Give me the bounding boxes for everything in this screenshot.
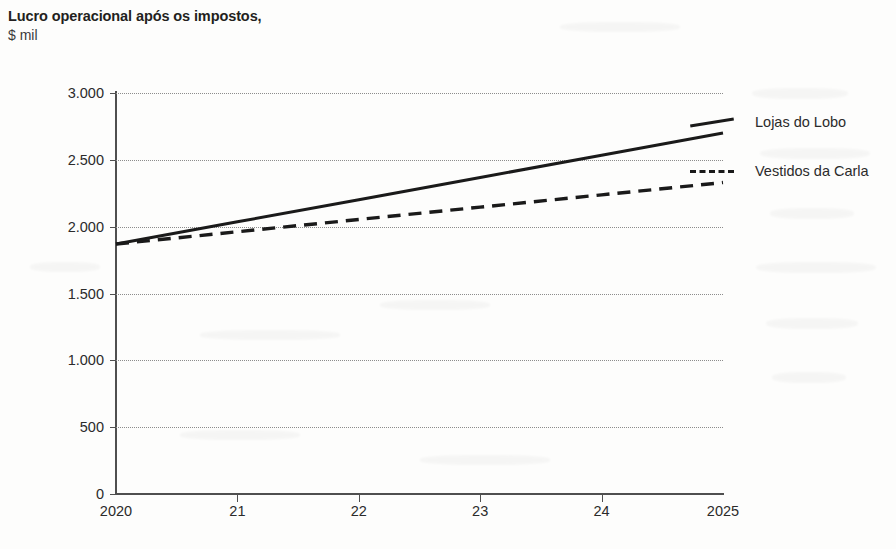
plot-area [116, 93, 723, 494]
x-axis-ticks [116, 494, 723, 502]
x-axis-tick-label: 22 [351, 503, 367, 519]
x-axis-tick [602, 494, 603, 502]
chart-page: Lucro operacional após os impostos, $ mi… [0, 0, 896, 549]
page-bleed-artifact [766, 318, 858, 329]
page-bleed-artifact [752, 88, 848, 99]
x-axis-tick-label: 2025 [707, 503, 739, 519]
x-axis-tick-label: 23 [472, 503, 488, 519]
y-axis-tick-label: 1.500 [68, 286, 104, 302]
x-axis-labels: 2020212223242025 [0, 503, 896, 527]
y-axis-tick-label: 0 [96, 486, 104, 502]
page-bleed-artifact [756, 262, 876, 273]
y-axis-tick-label: 500 [80, 419, 104, 435]
x-axis-tick-label: 24 [594, 503, 610, 519]
legend-item-label: Vestidos da Carla [755, 161, 869, 181]
x-axis-tick [359, 494, 360, 502]
page-bleed-artifact [560, 22, 680, 32]
page-bleed-artifact [772, 372, 846, 383]
x-axis-tick-label: 21 [229, 503, 245, 519]
x-axis-tick [480, 494, 481, 502]
y-axis-tick-label: 2.000 [68, 219, 104, 235]
y-axis-tick-label: 3.000 [68, 85, 104, 101]
x-axis-tick-label: 2020 [100, 503, 132, 519]
y-axis-tick-label: 1.000 [68, 352, 104, 368]
x-axis-tick [237, 494, 238, 502]
page-bleed-artifact [770, 208, 854, 219]
page-title: Lucro operacional após os impostos, [8, 8, 528, 25]
y-axis-labels: 05001.0001.5002.0002.5003.000 [0, 93, 104, 494]
chart-subtitle: $ mil [8, 26, 528, 44]
series-lines [116, 93, 723, 494]
legend-item-label: Lojas do Lobo [755, 112, 846, 132]
chart-heading: Lucro operacional após os impostos, $ mi… [8, 8, 528, 44]
series-line [116, 133, 723, 244]
y-axis-tick-label: 2.500 [68, 152, 104, 168]
page-bleed-artifact [760, 148, 870, 159]
legend-dashed-line-icon [690, 170, 734, 173]
page-caption [0, 530, 896, 549]
series-line [116, 183, 723, 244]
